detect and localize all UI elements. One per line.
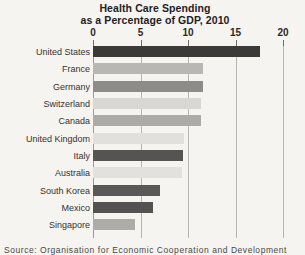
- chart-container: Health Care Spending as a Percentage of …: [0, 0, 305, 255]
- bar: [93, 46, 260, 57]
- category-label: Germany: [2, 82, 90, 92]
- bar-row: [93, 81, 283, 92]
- bar-row: [93, 202, 283, 213]
- bar: [93, 115, 201, 126]
- category-label: United States: [2, 47, 90, 57]
- chart-title: Health Care Spending as a Percentage of …: [60, 2, 250, 26]
- category-axis-labels: United StatesFranceGermanySwitzerlandCan…: [0, 46, 90, 238]
- x-tick-label-15: 15: [221, 27, 251, 38]
- bar: [93, 133, 184, 144]
- category-label: South Korea: [2, 186, 90, 196]
- bar-row: [93, 98, 283, 109]
- category-label: Mexico: [2, 203, 90, 213]
- bar: [93, 98, 201, 109]
- category-label: Singapore: [2, 220, 90, 230]
- x-tick-label-5: 5: [126, 27, 156, 38]
- x-tick-label-10: 10: [173, 27, 203, 38]
- bar-row: [93, 46, 283, 57]
- source-note: Source: Organisation for Economic Cooper…: [4, 245, 287, 255]
- chart-title-line-2: as a Percentage of GDP, 2010: [60, 14, 250, 26]
- bar: [93, 81, 203, 92]
- category-label: Canada: [2, 116, 90, 126]
- bar-row: [93, 133, 283, 144]
- bar-row: [93, 185, 283, 196]
- bar-row: [93, 115, 283, 126]
- bar: [93, 150, 183, 161]
- category-label: France: [2, 64, 90, 74]
- bar: [93, 167, 182, 178]
- bar-row: [93, 167, 283, 178]
- category-label: Australia: [2, 168, 90, 178]
- bar: [93, 185, 160, 196]
- bar-row: [93, 63, 283, 74]
- chart-title-line-1: Health Care Spending: [99, 2, 210, 14]
- plot-area: [93, 46, 283, 238]
- bar-row: [93, 219, 283, 230]
- category-label: Italy: [2, 151, 90, 161]
- category-label: United Kingdom: [2, 134, 90, 144]
- gridline-20: [283, 46, 284, 238]
- bar: [93, 63, 203, 74]
- x-tick-label-0: 0: [78, 27, 108, 38]
- x-tick-label-20: 20: [268, 27, 298, 38]
- bar: [93, 219, 135, 230]
- category-label: Switzerland: [2, 99, 90, 109]
- bar-row: [93, 150, 283, 161]
- bar: [93, 202, 153, 213]
